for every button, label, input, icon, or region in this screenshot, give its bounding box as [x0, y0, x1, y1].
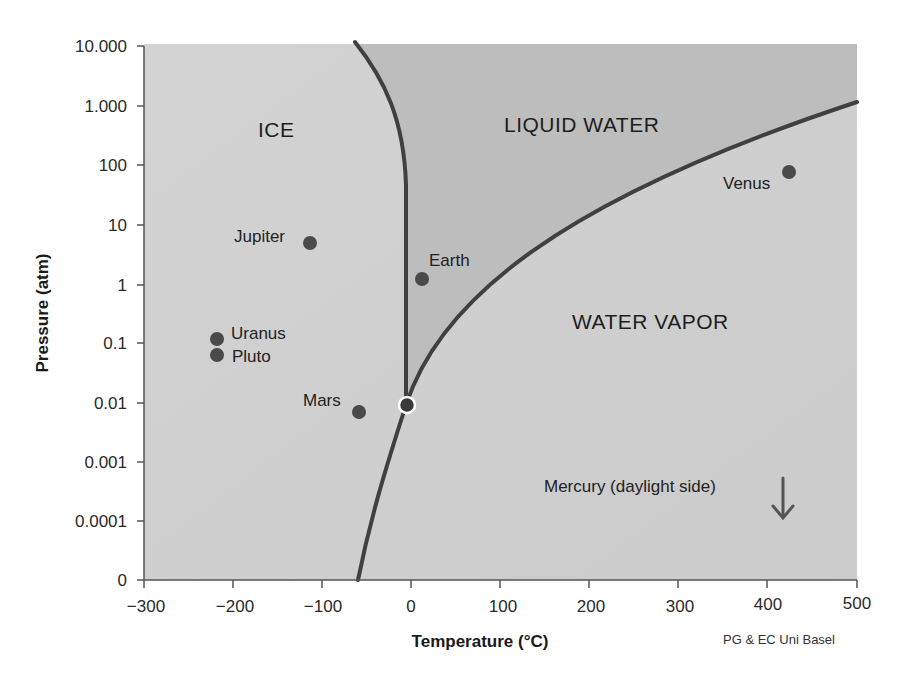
svg-text:Earth: Earth — [429, 251, 470, 270]
x-tick-labels: −300 −200 −100 0 100 200 300 400 500 — [127, 594, 871, 616]
svg-text:0: 0 — [406, 597, 415, 616]
svg-text:1.000: 1.000 — [84, 97, 127, 116]
svg-text:Pluto: Pluto — [232, 347, 271, 366]
region-label-vapor: WATER VAPOR — [572, 310, 729, 333]
svg-text:Jupiter: Jupiter — [234, 227, 285, 246]
svg-text:300: 300 — [666, 597, 694, 616]
svg-text:0.0001: 0.0001 — [75, 512, 127, 531]
x-axis-title: Temperature (°C) — [412, 632, 549, 651]
svg-text:0: 0 — [118, 571, 127, 590]
svg-text:0.001: 0.001 — [84, 453, 127, 472]
svg-text:Uranus: Uranus — [231, 324, 286, 343]
phase-diagram-chart: 10.000 1.000 100 10 1 0.1 0.01 0.001 0.0… — [0, 0, 901, 690]
svg-text:0.1: 0.1 — [103, 334, 127, 353]
svg-text:Venus: Venus — [723, 174, 770, 193]
y-ticks — [137, 46, 144, 521]
svg-text:100: 100 — [489, 597, 517, 616]
svg-text:500: 500 — [843, 594, 871, 613]
y-axis-title: Pressure (atm) — [33, 253, 52, 372]
svg-text:Mars: Mars — [303, 391, 341, 410]
region-label-ice: ICE — [258, 118, 295, 141]
region-label-liquid: LIQUID WATER — [504, 113, 659, 136]
svg-text:1: 1 — [118, 276, 127, 295]
x-ticks — [144, 580, 857, 588]
svg-text:200: 200 — [577, 597, 605, 616]
y-tick-labels: 10.000 1.000 100 10 1 0.1 0.01 0.001 0.0… — [75, 37, 127, 590]
svg-text:400: 400 — [754, 595, 782, 614]
svg-text:10.000: 10.000 — [75, 37, 127, 56]
credit-text: PG & EC Uni Basel — [723, 632, 835, 647]
svg-text:−300: −300 — [127, 597, 165, 616]
triple-point-marker — [399, 397, 415, 413]
svg-text:−100: −100 — [304, 597, 342, 616]
svg-text:−200: −200 — [216, 597, 254, 616]
svg-text:100: 100 — [99, 156, 127, 175]
svg-text:10: 10 — [108, 216, 127, 235]
svg-text:0.01: 0.01 — [94, 394, 127, 413]
mercury-annotation: Mercury (daylight side) — [544, 477, 716, 496]
